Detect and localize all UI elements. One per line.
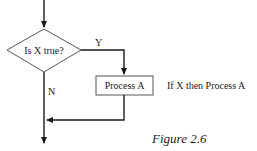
figure-caption: Figure 2.6 xyxy=(151,131,207,146)
yes-label: Y xyxy=(95,37,102,48)
annotation-text: If X then Process A xyxy=(167,80,246,91)
process-label: Process A xyxy=(105,80,146,91)
decision-label: Is X true? xyxy=(24,45,64,56)
no-label: N xyxy=(48,86,55,97)
merge-line xyxy=(47,95,124,120)
yes-branch-line xyxy=(81,50,124,74)
flowchart: Is X true? Y Process A N If X then Proce… xyxy=(0,0,257,151)
